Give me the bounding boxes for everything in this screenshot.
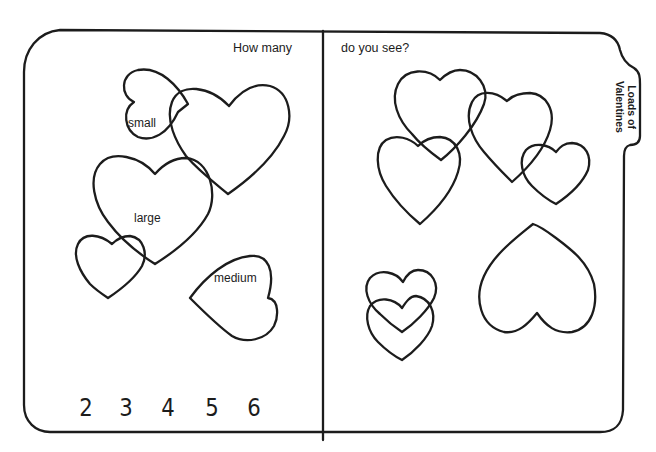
heart-label-large: large xyxy=(134,211,161,225)
answer-choice-2[interactable]: 2 xyxy=(79,393,93,422)
folder-tab: Loads of Valentines xyxy=(612,71,638,143)
answer-choice-4[interactable]: 4 xyxy=(161,393,175,422)
answer-choice-3[interactable]: 3 xyxy=(119,393,133,422)
heart-right-3 xyxy=(378,137,460,224)
tab-label-line-2: Valentines xyxy=(614,71,626,143)
answer-choices: 2 3 4 5 6 xyxy=(70,393,280,423)
heart-label-medium: medium xyxy=(214,271,257,285)
worksheet-drawing xyxy=(0,0,656,452)
heart-medium xyxy=(190,256,277,340)
answer-choice-6[interactable]: 6 xyxy=(247,393,261,422)
heart-right-6 xyxy=(367,296,433,360)
heart-right-4 xyxy=(522,143,589,204)
worksheet-page: How many do you see? Loads of Valentines… xyxy=(0,0,656,452)
heart-right-upside-down xyxy=(479,224,595,332)
heart-right-2 xyxy=(469,93,552,182)
heart-label-small: small xyxy=(128,116,156,130)
heart-right-1 xyxy=(395,70,486,160)
question-part-2: do you see? xyxy=(341,41,409,55)
question-part-1: How many xyxy=(233,41,292,55)
tab-label-line-1: Loads of xyxy=(626,71,638,143)
answer-choice-5[interactable]: 5 xyxy=(205,393,219,422)
heart-small-bottom xyxy=(76,236,145,298)
